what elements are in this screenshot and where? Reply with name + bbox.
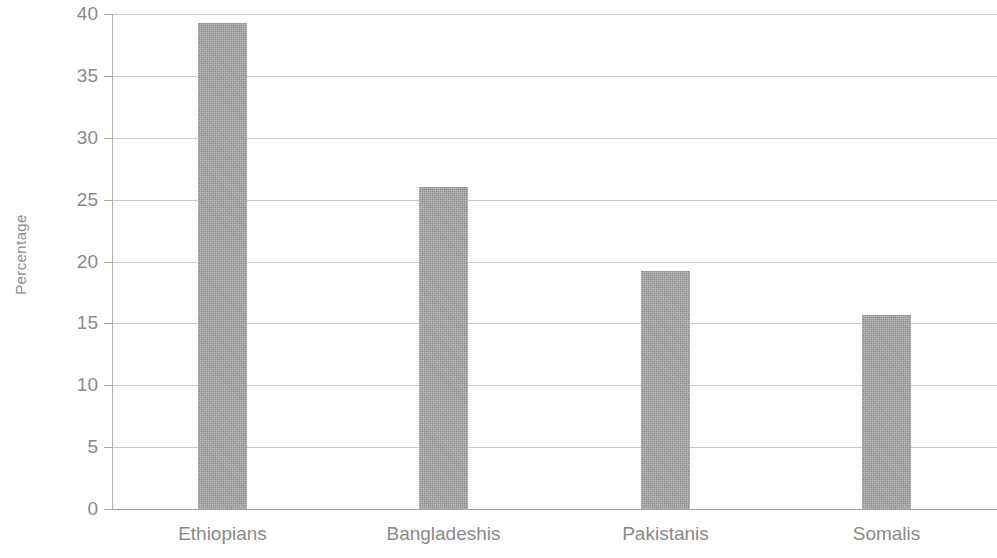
bar-chart: Percentage 0510152025303540 EthiopiansBa… — [0, 0, 997, 558]
y-axis-title-label: Percentage — [12, 214, 29, 295]
bar — [641, 271, 690, 509]
y-axis-tick-label: 10 — [42, 375, 98, 394]
y-axis-tick — [104, 447, 113, 448]
y-axis-tick — [104, 14, 113, 15]
bar — [862, 315, 911, 509]
x-axis-label: Pakistanis — [555, 524, 776, 543]
y-axis-tick — [104, 323, 113, 324]
gridline — [112, 509, 997, 510]
y-axis-tick — [104, 385, 113, 386]
x-axis-label: Bangladeshis — [333, 524, 554, 543]
bar — [419, 187, 468, 509]
gridline — [112, 14, 997, 15]
y-axis-tick-label: 30 — [42, 128, 98, 147]
y-axis-tick-label: 20 — [42, 252, 98, 271]
y-axis-tick — [104, 509, 113, 510]
y-axis-tick — [104, 138, 113, 139]
y-axis-title: Percentage — [0, 0, 40, 509]
y-axis-tick — [104, 262, 113, 263]
x-axis-label: Somalis — [776, 524, 997, 543]
y-axis-tick-label: 25 — [42, 190, 98, 209]
y-axis-tick-label: 5 — [42, 437, 98, 456]
y-axis-tick — [104, 76, 113, 77]
y-axis-tick-label: 40 — [42, 4, 98, 23]
x-axis-label: Ethiopians — [112, 524, 333, 543]
y-axis-tick-label: 0 — [42, 499, 98, 518]
y-axis-tick — [104, 200, 113, 201]
y-axis-tick-label: 35 — [42, 66, 98, 85]
bar — [198, 23, 247, 509]
y-axis-tick-label: 15 — [42, 313, 98, 332]
